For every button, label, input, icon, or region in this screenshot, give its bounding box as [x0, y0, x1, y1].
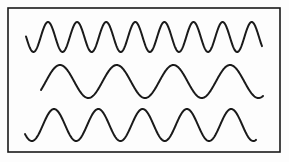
wave-diagram	[0, 0, 289, 162]
waveform-canvas	[0, 0, 289, 162]
middle-wave	[41, 65, 263, 98]
diagram-frame	[8, 8, 280, 152]
top-wave	[26, 22, 262, 52]
bottom-wave	[25, 109, 256, 141]
